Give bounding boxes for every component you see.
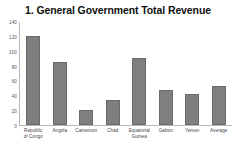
x-axis-tick-label: Average: [206, 128, 233, 148]
y-axis-tick-label: 100: [9, 49, 17, 54]
bar[interactable]: [212, 86, 226, 125]
x-axis-tick-label-line: Yemen: [180, 128, 205, 134]
y-axis-tick-label: 80: [12, 64, 17, 69]
y-axis-tick-label: 140: [9, 20, 17, 25]
bar[interactable]: [106, 100, 120, 125]
x-axis-tick-label-line: of Congo: [21, 134, 46, 140]
x-axis-tick-label: Gabon: [153, 128, 180, 148]
bar-slot: [179, 22, 206, 125]
bar[interactable]: [159, 90, 173, 125]
x-axis-tick-label-line: Guinea: [127, 134, 152, 140]
x-axis-tick-label-line: Cameroon: [74, 128, 99, 134]
x-axis-tick-label-line: Gabon: [154, 128, 179, 134]
x-axis-tick-label-line: Republic: [21, 128, 46, 134]
x-axis-tick-label: Yemen: [179, 128, 206, 148]
bar-slot: [47, 22, 74, 125]
chart-figure: 1. General Government Total Revenue 0204…: [0, 0, 236, 148]
bar-slot: [73, 22, 100, 125]
y-axis-tick-label: 120: [9, 34, 17, 39]
x-axis-tick-label: Cameroon: [73, 128, 100, 148]
bar-slot: [20, 22, 47, 125]
bar[interactable]: [53, 62, 67, 125]
x-axis-tick-label: Angola: [47, 128, 74, 148]
x-axis-tick-label-line: Equatorial: [127, 128, 152, 134]
y-axis-tick-label: 0: [14, 124, 17, 129]
bar[interactable]: [26, 36, 40, 125]
y-axis-tick-label: 40: [12, 94, 17, 99]
bar[interactable]: [79, 110, 93, 125]
y-axis-tick-label: 20: [12, 109, 17, 114]
x-axis-tick-label: EquatorialGuinea: [126, 128, 153, 148]
x-axis-tick-label-line: Average: [207, 128, 232, 134]
y-axis: 020406080100120140: [0, 22, 19, 126]
x-axis-tick-label-line: Angola: [48, 128, 73, 134]
x-axis-tick-label: Republicof Congo: [20, 128, 47, 148]
bar-slot: [206, 22, 233, 125]
x-axis: Republicof CongoAngolaCameroonChadEquato…: [20, 128, 232, 148]
x-axis-tick-label-line: Chad: [101, 128, 126, 134]
bar[interactable]: [132, 58, 146, 125]
bar-slot: [153, 22, 180, 125]
bar-series: [20, 22, 232, 125]
bar-slot: [126, 22, 153, 125]
bar[interactable]: [185, 94, 199, 125]
x-axis-tick-label: Chad: [100, 128, 127, 148]
y-axis-tick-label: 60: [12, 79, 17, 84]
chart-title: 1. General Government Total Revenue: [0, 4, 236, 16]
bar-slot: [100, 22, 127, 125]
